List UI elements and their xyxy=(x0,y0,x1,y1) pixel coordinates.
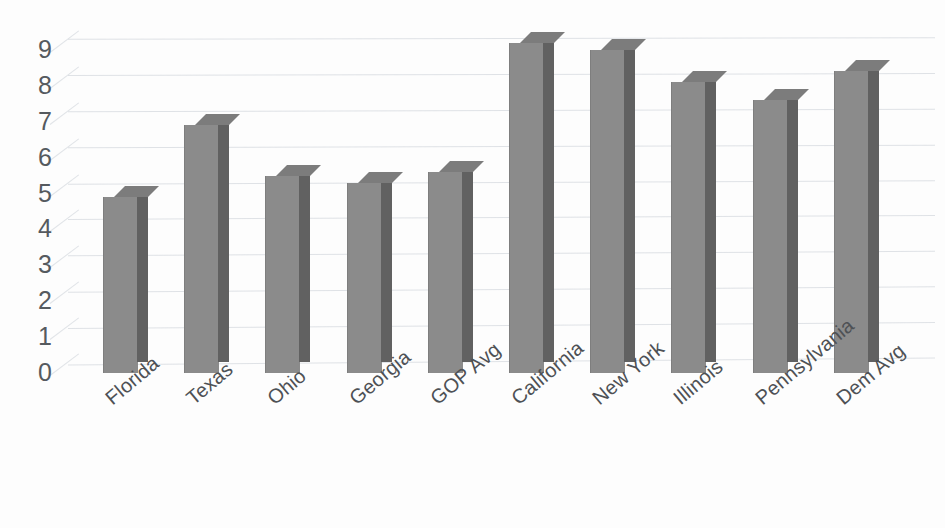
x-axis-category-label: California xyxy=(507,336,588,409)
x-axis-category-label: GOP Avg xyxy=(426,338,505,410)
plot-area: 0123456789 FloridaTexasOhioGeorgiaGOP Av… xyxy=(0,0,945,528)
bar-chart: 0123456789 FloridaTexasOhioGeorgiaGOP Av… xyxy=(0,0,945,528)
x-axis-category-label: Florida xyxy=(101,352,164,410)
x-axis-category-label: Ohio xyxy=(263,364,311,409)
x-axis-category-label: New York xyxy=(588,337,669,410)
x-axis-category-label: Dem Avg xyxy=(832,339,910,409)
x-axis-category-label: Illinois xyxy=(669,355,728,409)
x-axis-category-label: Georgia xyxy=(345,345,415,409)
x-axis-category-label: Texas xyxy=(182,358,238,410)
x-axis: FloridaTexasOhioGeorgiaGOP AvgCalifornia… xyxy=(0,0,945,528)
